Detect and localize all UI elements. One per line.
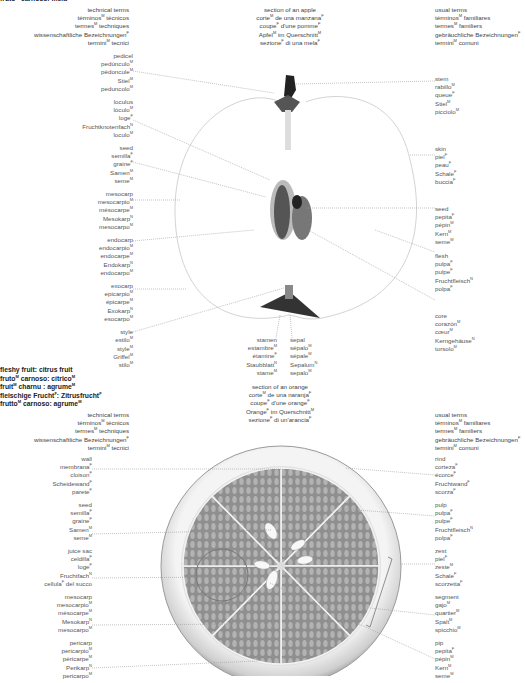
apple-category-title: frutoᴹ carnoso: mela <box>0 0 67 4</box>
term-pip: KernM <box>435 664 473 672</box>
term-seed: semeM <box>82 177 133 185</box>
term-sepal: SepalumN <box>290 361 317 369</box>
term-seed: seed <box>82 144 133 152</box>
term-pulp: pulp <box>435 501 473 509</box>
header-line: termesM familiers <box>435 427 520 435</box>
title-line: OrangeF im QuerschnittM <box>200 408 360 416</box>
term-exocarp: ExokarpN <box>82 307 133 315</box>
term-segment: SpaltM <box>435 618 473 626</box>
apple-label-stamen: stamenestambreMétamineFStaubblattNstameM <box>246 336 277 377</box>
header-line: technical terms <box>34 411 129 419</box>
term-rind: rind <box>435 455 473 463</box>
header-line: termesM techniques <box>34 22 129 30</box>
term-wall: ScheidewandF <box>44 480 92 488</box>
label-group-pericarp: pericarppericarpioMpéricarpeMPerikarpNpe… <box>44 639 92 680</box>
term-style: estiloM <box>82 336 133 344</box>
term-pedicel: pedicel <box>82 52 133 60</box>
term-pip: semeM <box>435 672 473 680</box>
orange-left-labels: wallmembranaFcloisonFScheidewandFpareteF… <box>44 455 92 683</box>
apple-section-title: section of an applecorteM de una manzana… <box>210 6 370 47</box>
apple-core-art <box>260 75 320 318</box>
term-pedicel: peduncoloM <box>82 85 133 93</box>
label-group-zest: zestpielFzesteMSchaleFscorzettaF <box>435 547 473 588</box>
label-group-wall: wallmembranaFcloisonFScheidewandFpareteF <box>44 455 92 496</box>
term-pericarp: péricarpeM <box>44 655 92 663</box>
header-line: terminiM comuni <box>435 39 520 47</box>
label-group-mesocarp: mesocarpmesocarpioMmésocarpeMMesokarpNme… <box>82 190 133 231</box>
term-endocarp: endocarpoM <box>82 269 133 277</box>
term-exocarp: esocarpoM <box>82 315 133 323</box>
term-wall: pareteF <box>44 488 92 496</box>
header-line: technical terms <box>34 6 129 14</box>
label-group-style: styleestiloMstyleMGriffelMstiloM <box>82 328 133 369</box>
term-loculus: loculoM <box>82 131 133 139</box>
title-line: fruttoM carnoso: agrumeM <box>0 400 102 409</box>
term-seed: pépinM <box>435 221 475 229</box>
term-pericarp: PerikarpN <box>44 664 92 672</box>
label-group-pulp: pulppulpaFpulpeFFruchtfleischNpolpaF <box>435 501 473 542</box>
term-flesh: pulpeF <box>435 268 475 276</box>
apple-left-labels: pedicelpedúnculoMpédonculeMStielMpedunco… <box>82 52 133 374</box>
term-stamen: étamineF <box>246 352 277 360</box>
term-loculus: logeF <box>82 114 133 122</box>
header-line: gebräuchliche BezeichnungenF <box>435 436 520 444</box>
term-mesocarp: mesocarpoM <box>44 626 92 634</box>
label-group-pip: pippepitaFpépinMKernMsemeM <box>435 639 473 680</box>
term-seed: seed <box>44 501 92 509</box>
term-juice-sac: cellulaF del succo <box>44 580 92 588</box>
title-line: section of an orange <box>200 383 360 391</box>
term-flesh: FruchtfleischN <box>435 277 475 285</box>
label-group-core: corecorazónMcœurMKerngehäuseNtorsoloM <box>435 312 475 353</box>
term-juice-sac: logeF <box>44 563 92 571</box>
orange-right-labels: rindcortezaFécorceFFruchtwandFscorzaFpul… <box>435 455 473 683</box>
term-loculus: FruchtknotenfachN <box>82 123 133 131</box>
label-group-exocarp: exocarpepicarpioMépicarpeMExokarpNesocar… <box>82 282 133 323</box>
term-seed: semeM <box>435 238 475 246</box>
term-stamen: StaubblattN <box>246 361 277 369</box>
term-seed: seed <box>435 205 475 213</box>
label-group-flesh: fleshpulpaFpulpeFFruchtfleischNpolpaF <box>435 252 475 293</box>
term-skin: skin <box>435 145 475 153</box>
header-line: terminiM tecnici <box>34 444 129 452</box>
term-mesocarp: MesokarpN <box>82 215 133 223</box>
term-core: cœurM <box>435 328 475 336</box>
apple-right-labels: stemrabilloMqueueFStielMpiccioloMskinpie… <box>435 75 475 358</box>
label-group-loculus: loculuslóculoMlogeFFruchtknotenfachNlocu… <box>82 98 133 139</box>
header-line: usual terms <box>435 6 520 14</box>
term-segment: quartierM <box>435 609 473 617</box>
term-zest: zest <box>435 547 473 555</box>
term-core: torsoloM <box>435 345 475 353</box>
term-pedicel: StielM <box>82 77 133 85</box>
term-segment: spicchioM <box>435 626 473 634</box>
term-sepal: sepaloM <box>290 369 317 377</box>
citrus-category-title: fleshy fruit: citrus fruitfrutoM carnoso… <box>0 366 102 409</box>
term-endocarp: EndokarpN <box>82 261 133 269</box>
term-endocarp: endocarpeM <box>82 252 133 260</box>
header-line: usual terms <box>435 411 520 419</box>
orange-usual-terms-header: usual termstérminosM familiarestermesM f… <box>435 411 520 452</box>
label-group-seed: seedsemillaFgraineFSamenMsemeM <box>82 144 133 185</box>
term-seed: KernM <box>435 230 475 238</box>
orange-section <box>161 446 401 676</box>
label-group-seed: seedpepitaFpépinMKernMsemeM <box>435 205 475 246</box>
term-wall: cloisonF <box>44 471 92 479</box>
term-pip: pépinM <box>435 655 473 663</box>
term-pulp: polpaF <box>435 534 473 542</box>
title-line: section of an apple <box>210 6 370 14</box>
term-stem: queueF <box>435 91 475 99</box>
title-line: coupeF d'une pommeF <box>210 22 370 30</box>
term-flesh: polpaF <box>435 285 475 293</box>
label-group-skin: skinpielFpeauFSchaleFbucciaF <box>435 145 475 186</box>
term-wall: wall <box>44 455 92 463</box>
header-line: terminiM comuni <box>435 444 520 452</box>
term-zest: SchaleF <box>435 572 473 580</box>
label-group-seed: seedsemillaFgraineFSamenMsemeM <box>44 501 92 542</box>
title-line: fruitM charnu : agrumeM <box>0 383 102 392</box>
apple-label-sepal: sepalsépaloMsépaleMSepalumNsepaloM <box>290 336 317 377</box>
term-pulp: pulpeF <box>435 517 473 525</box>
term-stamen: stamen <box>246 336 277 344</box>
label-group-pedicel: pedicelpedúnculoMpédonculeMStielMpedunco… <box>82 52 133 93</box>
term-mesocarp: MesokarpN <box>44 618 92 626</box>
term-exocarp: épicarpeM <box>82 298 133 306</box>
term-seed: SamenM <box>82 169 133 177</box>
